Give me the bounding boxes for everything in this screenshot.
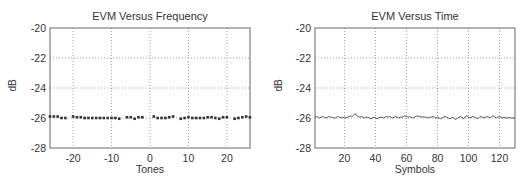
data-point <box>226 116 229 119</box>
data-point <box>172 115 175 118</box>
data-point <box>53 115 56 118</box>
x-tick-label: -10 <box>104 152 119 164</box>
data-point <box>76 116 79 119</box>
data-point <box>137 116 140 119</box>
evm-time-panel: EVM Versus Time dB Symbols 2040608010012… <box>264 0 528 187</box>
x-tick-label: 100 <box>460 152 478 164</box>
y-tick-label: -24 <box>296 82 311 94</box>
evm-frequency-panel: EVM Versus Frequency dB Tones -20-100102… <box>0 0 264 187</box>
y-tick-label: -22 <box>31 52 46 64</box>
data-point <box>206 116 209 119</box>
y-tick-label: -28 <box>296 142 311 154</box>
x-tick-label: 120 <box>491 152 509 164</box>
data-point <box>91 117 94 120</box>
data-point <box>168 116 171 119</box>
data-point <box>233 117 236 120</box>
y-tick-label: -26 <box>31 112 46 124</box>
data-point <box>60 117 63 120</box>
data-point <box>106 117 109 120</box>
data-point <box>87 117 90 120</box>
data-point <box>118 117 121 120</box>
data-point <box>187 116 190 119</box>
data-point <box>141 116 144 119</box>
data-point <box>214 117 217 120</box>
data-point <box>103 117 106 120</box>
data-point <box>153 115 156 118</box>
evm-time-plot: 20406080100120-20-22-24-26-28 <box>264 0 528 187</box>
x-tick-label: 40 <box>370 152 382 164</box>
x-tick-label: -20 <box>65 152 80 164</box>
data-point <box>249 116 252 119</box>
data-point <box>183 117 186 120</box>
data-point <box>95 117 98 120</box>
data-point <box>237 117 240 120</box>
data-point <box>72 115 75 118</box>
data-point <box>99 117 102 120</box>
data-point <box>133 117 136 120</box>
x-tick-label: 0 <box>147 152 153 164</box>
data-point <box>245 115 248 118</box>
x-tick-label: 20 <box>221 152 233 164</box>
data-point <box>160 117 163 120</box>
y-tick-label: -26 <box>296 112 311 124</box>
data-point <box>49 115 52 118</box>
data-point <box>56 115 59 118</box>
x-tick-label: 20 <box>339 152 351 164</box>
y-tick-label: -28 <box>31 142 46 154</box>
data-point <box>83 117 86 120</box>
data-point <box>191 117 194 120</box>
data-point <box>222 116 225 119</box>
data-line <box>315 114 515 120</box>
data-point <box>241 116 244 119</box>
data-point <box>210 116 213 119</box>
evm-frequency-plot: -20-1001020-20-22-24-26-28 <box>0 0 264 187</box>
y-tick-label: -20 <box>296 22 311 34</box>
x-tick-label: 80 <box>432 152 444 164</box>
data-point <box>195 117 198 120</box>
data-point <box>199 117 202 120</box>
x-tick-label: 10 <box>183 152 195 164</box>
data-point <box>64 117 67 120</box>
data-point <box>114 117 117 120</box>
data-point <box>129 116 132 119</box>
data-point <box>179 117 182 120</box>
y-tick-label: -24 <box>31 82 46 94</box>
data-point <box>156 117 159 120</box>
x-tick-label: 60 <box>401 152 413 164</box>
data-point <box>164 117 167 120</box>
data-point <box>218 117 221 120</box>
data-point <box>79 116 82 119</box>
y-tick-label: -22 <box>296 52 311 64</box>
data-point <box>203 117 206 120</box>
data-point <box>110 117 113 120</box>
data-point <box>126 116 129 119</box>
y-tick-label: -20 <box>31 22 46 34</box>
